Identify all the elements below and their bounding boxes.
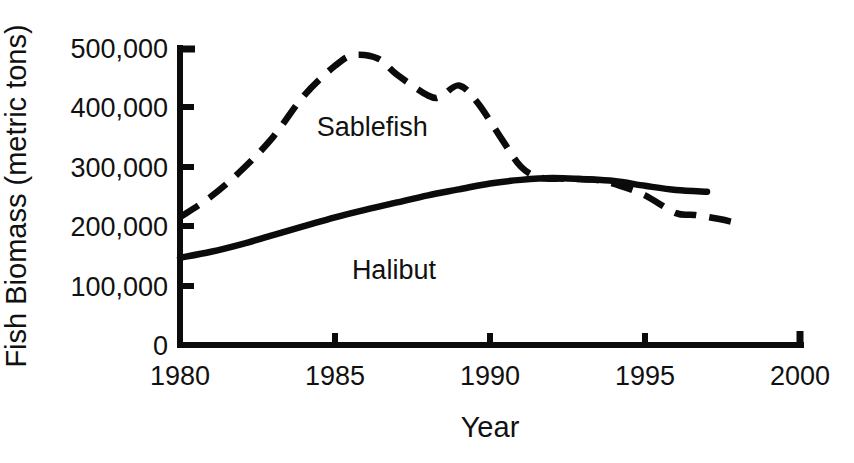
y-tick-label-300000: 300,000 (70, 153, 168, 183)
x-axis-title: Year (461, 411, 520, 443)
y-tick-label-200000: 200,000 (70, 212, 168, 242)
x-tick-label-1995: 1995 (615, 361, 675, 391)
series-label-sablefish: Sablefish (317, 112, 428, 142)
x-tick-label-2000: 2000 (770, 361, 830, 391)
series-line-sablefish (180, 55, 738, 224)
chart-figure: Fish Biomass (metric tons) 500,000 400,0… (0, 0, 854, 463)
x-tick-label-1980: 1980 (150, 361, 210, 391)
y-tick-label-500000: 500,000 (70, 34, 168, 64)
series-label-halibut: Halibut (352, 255, 437, 285)
x-tick-label-1990: 1990 (460, 361, 520, 391)
y-tick-label-400000: 400,000 (70, 93, 168, 123)
y-tick-label-100000: 100,000 (70, 272, 168, 302)
y-tick-label-0: 0 (153, 331, 168, 361)
line-chart: Fish Biomass (metric tons) 500,000 400,0… (0, 0, 854, 463)
x-tick-label-1985: 1985 (305, 361, 365, 391)
y-axis-title: Fish Biomass (metric tons) (0, 24, 32, 367)
figure-caption (0, 451, 854, 463)
